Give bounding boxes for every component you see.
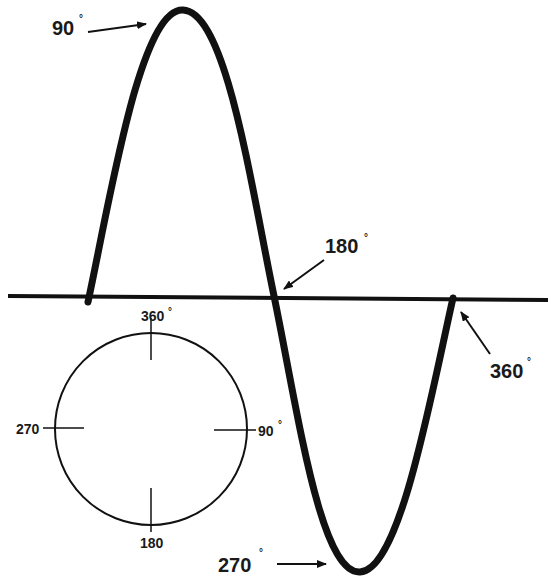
circle-label-270: 270 — [16, 421, 40, 437]
sine-wave-curve — [88, 10, 453, 572]
svg-text:90: 90 — [52, 17, 74, 39]
label-end-360: 360 ° — [461, 312, 531, 382]
arrow-to-360 — [461, 312, 490, 354]
svg-text:°: ° — [79, 13, 83, 24]
svg-text:°: ° — [527, 356, 531, 367]
arrow-to-peak — [88, 24, 146, 32]
circle-label-360: 360 — [141, 308, 165, 324]
label-peak-90: 90 ° — [52, 13, 146, 39]
svg-text:°: ° — [168, 306, 172, 317]
svg-text:180: 180 — [325, 235, 358, 257]
svg-text:°: ° — [364, 232, 368, 243]
circle-label-90: 90 — [258, 423, 274, 439]
sine-wave-diagram: 90 ° 180 ° 360 ° 270 ° 360 ° 90 ° 180 27… — [0, 0, 554, 586]
label-zero-cross-180: 180 ° — [284, 232, 368, 289]
svg-text:°: ° — [278, 419, 282, 430]
svg-text:°: ° — [259, 547, 263, 558]
circle-label-180: 180 — [140, 535, 164, 551]
svg-text:360: 360 — [490, 360, 523, 382]
arrow-to-180 — [284, 260, 324, 289]
rotation-circle: 360 ° 90 ° 180 270 — [16, 306, 282, 551]
label-trough-270: 270 ° — [218, 547, 326, 576]
svg-text:270: 270 — [218, 554, 251, 576]
